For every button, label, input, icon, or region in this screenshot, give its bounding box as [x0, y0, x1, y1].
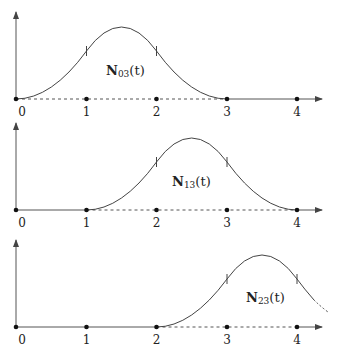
svg-text:3: 3: [223, 216, 231, 230]
function-label: N23(t): [246, 290, 285, 306]
svg-text:0: 0: [18, 333, 26, 347]
svg-text:2: 2: [153, 105, 161, 119]
basis-curve-continuation: [314, 300, 328, 312]
basis-curve: [157, 255, 315, 327]
svg-text:1: 1: [83, 105, 91, 119]
basis-curve: [16, 27, 227, 99]
diagram-canvas: 0 1 2 3 4 N03(t) 0 1 2 3 4 N13(t): [0, 0, 338, 359]
svg-text:4: 4: [293, 333, 301, 347]
svg-text:4: 4: [293, 216, 301, 230]
svg-text:3: 3: [223, 333, 231, 347]
panel-n13: 0 1 2 3 4 N13(t): [14, 123, 322, 230]
svg-text:2: 2: [153, 216, 161, 230]
x-tick-labels: 0 1 2 3 4: [18, 105, 301, 119]
svg-text:0: 0: [18, 105, 26, 119]
svg-text:4: 4: [293, 105, 301, 119]
basis-curve: [87, 138, 298, 210]
x-tick-labels: 0 1 2 3 4: [18, 333, 301, 347]
svg-text:0: 0: [18, 216, 26, 230]
svg-text:3: 3: [223, 105, 231, 119]
panel-n23: 0 1 2 3 4 N23(t): [14, 240, 328, 347]
svg-text:2: 2: [153, 333, 161, 347]
x-tick-labels: 0 1 2 3 4: [18, 216, 301, 230]
svg-text:1: 1: [83, 333, 91, 347]
panel-n03: 0 1 2 3 4 N03(t): [14, 12, 322, 119]
svg-text:1: 1: [83, 216, 91, 230]
function-label: N03(t): [106, 63, 145, 79]
function-label: N13(t): [172, 174, 211, 190]
